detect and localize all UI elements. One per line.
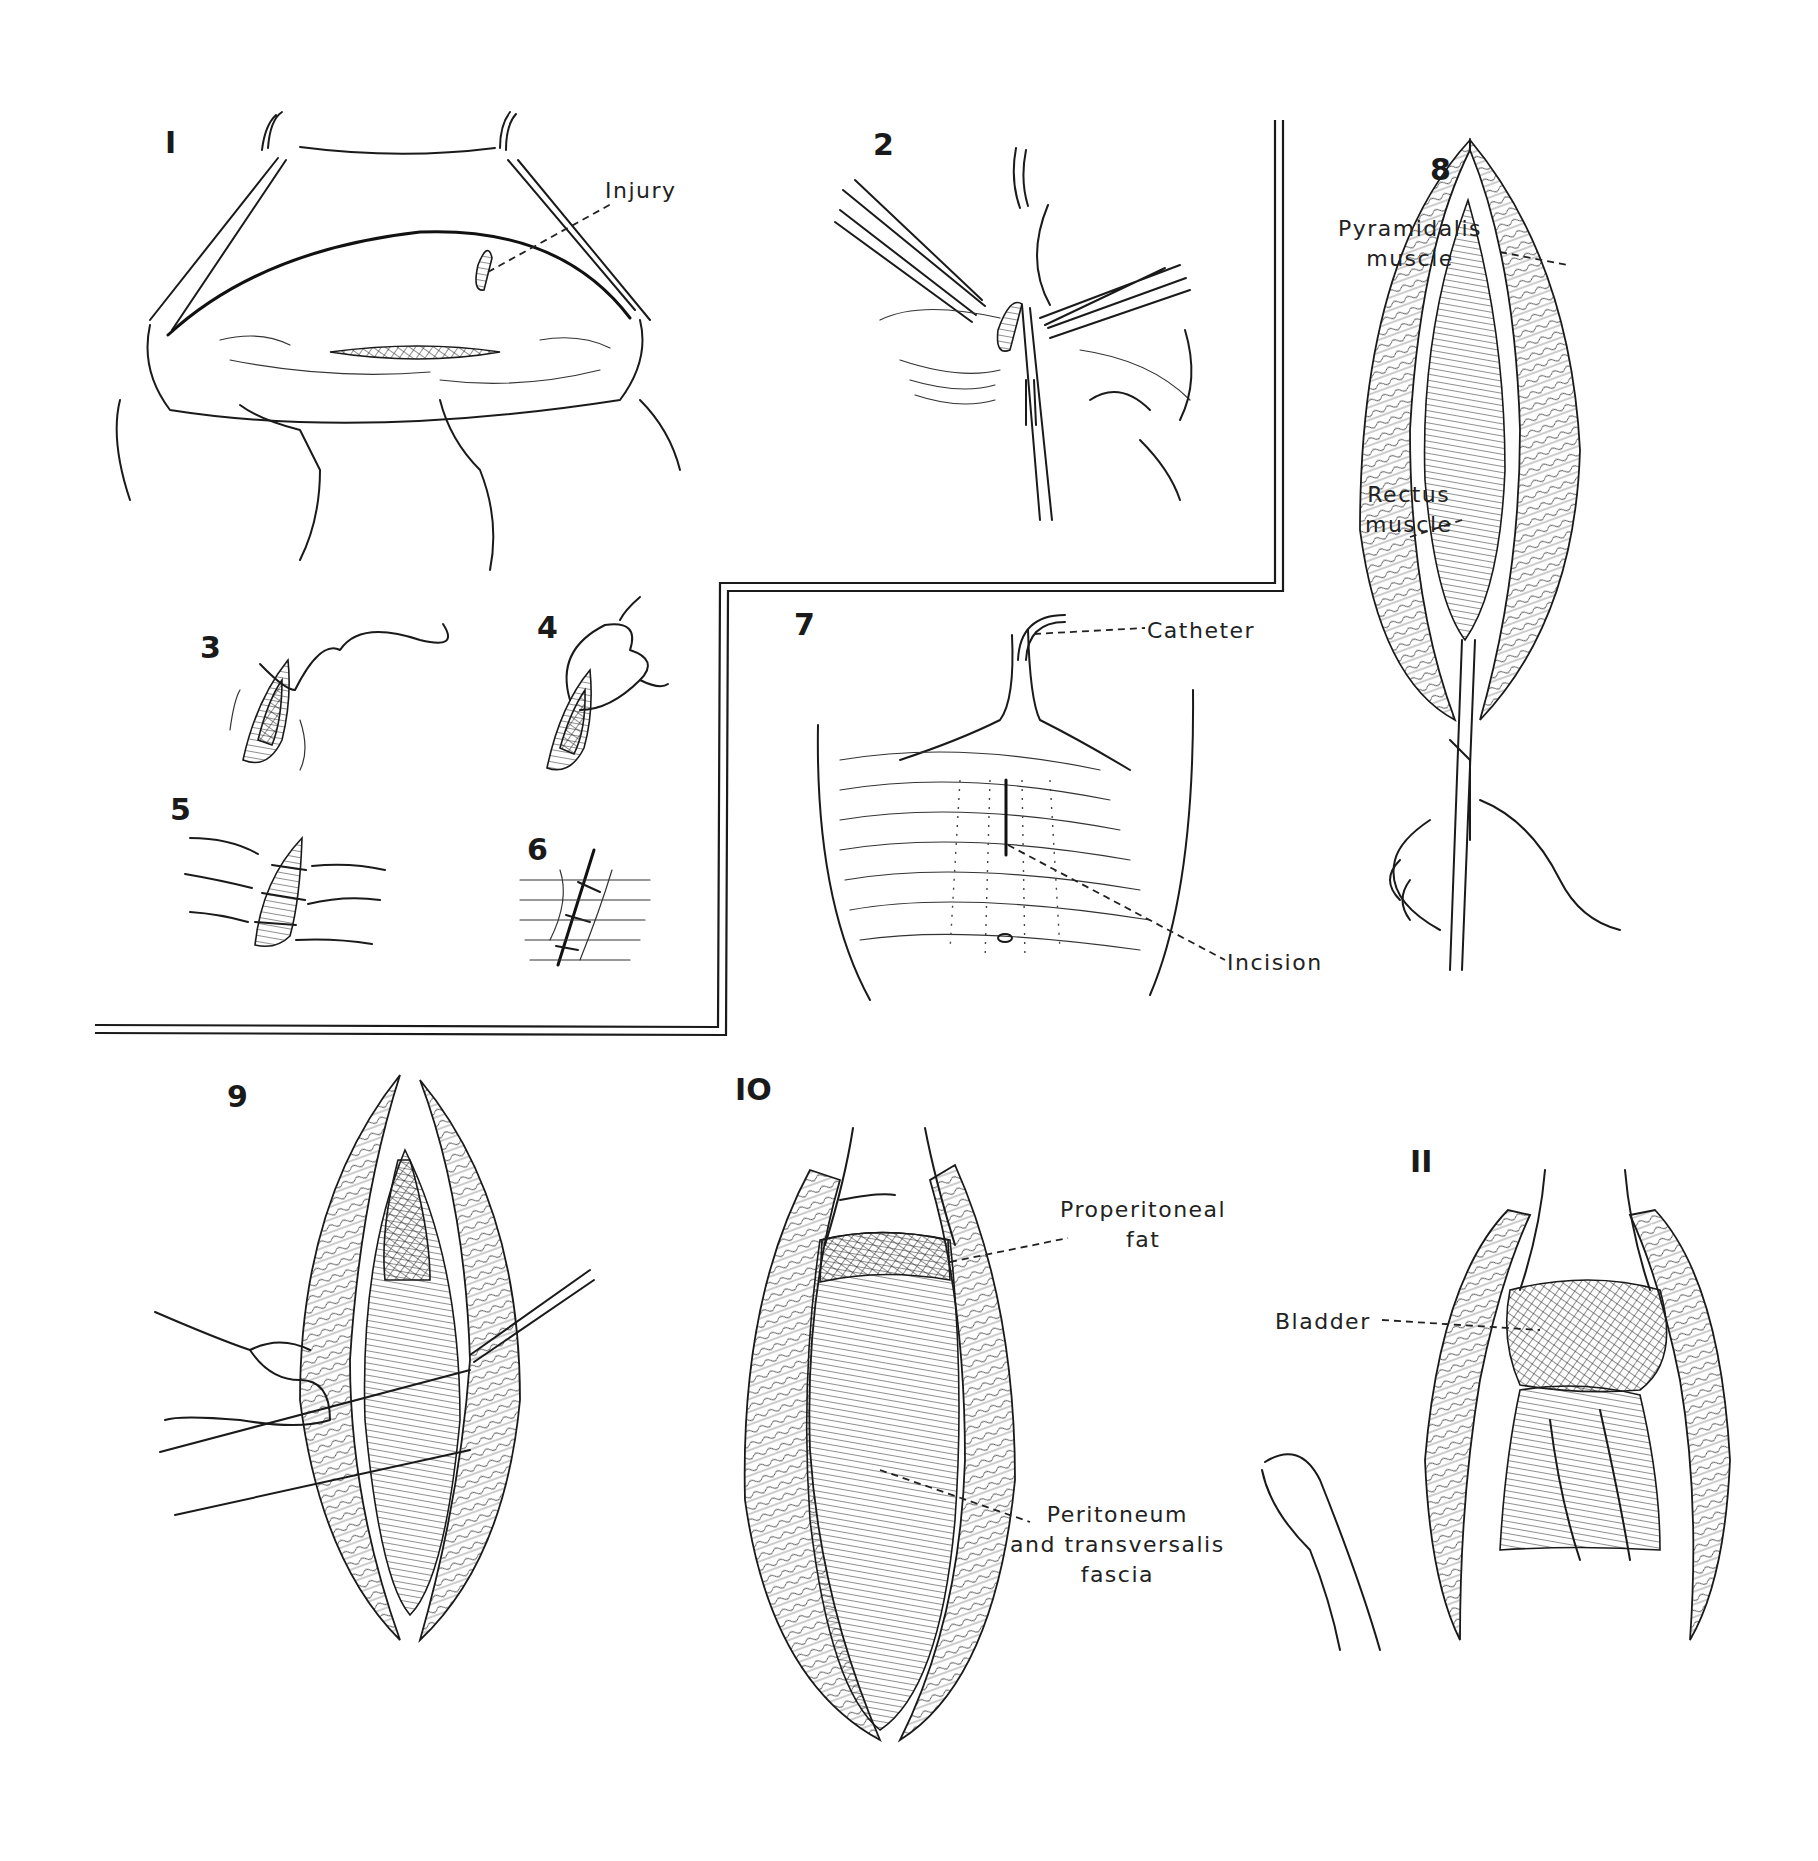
panel-number-11: II — [1410, 1147, 1432, 1177]
panel-number-5: 5 — [170, 795, 191, 825]
label-catheter: Catheter — [1147, 616, 1255, 646]
panel-number-6: 6 — [527, 835, 548, 865]
panel-number-7: 7 — [794, 610, 815, 640]
label-peritoneum-transversalis-fascia: Peritoneum and transversalis fascia — [1010, 1500, 1225, 1590]
label-pyramidalis-muscle: Pyramidalis muscle — [1338, 214, 1482, 274]
panel-7-drawing — [818, 615, 1193, 1000]
panel-number-1: I — [165, 128, 176, 158]
panel-number-3: 3 — [200, 633, 221, 663]
illustration-artwork — [0, 0, 1818, 1861]
panel-number-8: 8 — [1430, 155, 1451, 185]
leader-catheter — [1034, 628, 1145, 634]
panel-3-drawing — [230, 624, 448, 770]
label-incision: Incision — [1227, 948, 1323, 978]
panel-number-2: 2 — [873, 130, 894, 160]
leader-incision — [1008, 845, 1225, 960]
label-injury: Injury — [605, 176, 677, 206]
panel-number-9: 9 — [227, 1082, 248, 1112]
panel-4-drawing — [547, 597, 668, 770]
panel-11-drawing — [1262, 1170, 1730, 1650]
panel-number-4: 4 — [537, 613, 558, 643]
panel-number-10: IO — [735, 1075, 772, 1105]
panel-2-drawing — [835, 148, 1191, 520]
panel-6-drawing — [520, 850, 650, 965]
panel-5-drawing — [185, 838, 385, 946]
panel-9-drawing — [155, 1075, 594, 1640]
label-bladder: Bladder — [1275, 1307, 1371, 1337]
surgical-illustration-plate: I 2 3 4 5 6 7 8 9 IO II Injury Catheter … — [0, 0, 1818, 1861]
label-properitoneal-fat: Properitoneal fat — [1060, 1195, 1226, 1255]
panel-10-drawing — [745, 1128, 1015, 1740]
panel-1-drawing — [117, 112, 680, 570]
label-rectus-muscle: Rectus muscle — [1365, 480, 1453, 540]
